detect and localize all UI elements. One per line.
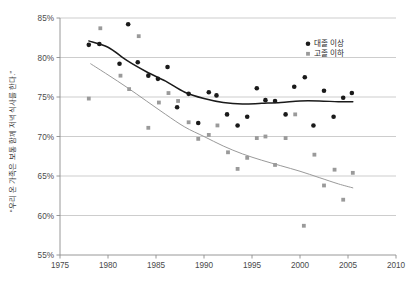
legend-marker-circle-icon — [306, 42, 311, 47]
data-point — [117, 62, 122, 67]
legend-item-label: 고졸 이하 — [314, 48, 344, 58]
x-tick-label: 1990 — [195, 261, 214, 270]
chart-legend: 대졸 이상고졸 이하 — [306, 38, 344, 58]
data-point — [135, 60, 140, 65]
data-point — [302, 224, 306, 228]
legend-item-label: 대졸 이상 — [314, 38, 344, 48]
data-point — [255, 136, 259, 140]
data-point — [283, 112, 288, 117]
x-tick-label: 2010 — [387, 261, 406, 270]
legend-marker-square-icon — [306, 52, 310, 56]
data-point — [273, 99, 278, 104]
data-point — [127, 87, 131, 91]
data-point — [226, 150, 230, 154]
data-point — [165, 65, 170, 70]
data-point — [187, 120, 191, 124]
y-tick-label: 70% — [38, 133, 54, 142]
data-point — [137, 34, 141, 38]
chart-plot: 55%60%65%70%75%80%85% 197519801985199019… — [0, 0, 410, 283]
data-point — [236, 167, 240, 171]
y-tick-label: 80% — [38, 54, 54, 63]
data-point — [341, 198, 345, 202]
data-point — [245, 156, 249, 160]
data-point — [146, 73, 151, 78]
data-point — [175, 105, 180, 110]
y-tick-label: 60% — [38, 212, 54, 221]
data-point — [98, 26, 102, 30]
x-axis-ticks — [60, 255, 396, 259]
data-point — [87, 97, 91, 101]
data-point — [119, 74, 123, 78]
data-point — [293, 112, 297, 116]
y-axis-tick-labels: 55%60%65%70%75%80%85% — [38, 14, 60, 260]
data-point — [216, 124, 220, 128]
data-point — [214, 93, 219, 98]
data-point — [196, 137, 200, 141]
chart-container: “우리 온 가족은 보통 함께 저녁식사를 한다.” 55%60%65%70%7… — [0, 0, 410, 283]
data-point — [351, 171, 355, 175]
data-point — [176, 99, 180, 103]
y-tick-label: 65% — [38, 172, 54, 181]
data-point — [303, 75, 308, 80]
data-point — [186, 92, 191, 97]
data-point — [254, 86, 259, 91]
x-tick-label: 2005 — [339, 261, 358, 270]
y-tick-label: 55% — [38, 251, 54, 260]
trend-lines — [89, 41, 353, 188]
data-point — [87, 43, 92, 48]
data-point — [245, 114, 250, 119]
data-point — [196, 121, 201, 126]
data-point — [97, 42, 102, 47]
x-tick-label: 2000 — [291, 261, 310, 270]
data-point — [313, 153, 317, 157]
x-axis-tick-labels: 19751980198519901995200020052010 — [51, 261, 406, 270]
data-point — [264, 135, 268, 139]
data-point — [284, 136, 288, 140]
data-point — [126, 22, 131, 27]
data-point — [322, 184, 326, 188]
data-point — [341, 95, 346, 100]
data-point — [207, 133, 211, 137]
y-tick-label: 85% — [38, 14, 54, 23]
data-point — [235, 123, 240, 128]
y-tick-label: 75% — [38, 93, 54, 102]
x-tick-label: 1975 — [51, 261, 70, 270]
data-point — [331, 114, 336, 119]
x-tick-label: 1995 — [243, 261, 262, 270]
data-point — [322, 88, 327, 93]
x-tick-label: 1980 — [99, 261, 118, 270]
data-point — [263, 98, 268, 103]
data-point — [207, 90, 212, 95]
data-point — [350, 91, 355, 96]
data-point — [273, 163, 277, 167]
data-point — [311, 123, 316, 128]
data-point — [156, 77, 161, 82]
x-tick-label: 1985 — [147, 261, 166, 270]
data-point — [292, 84, 297, 89]
data-point — [333, 168, 337, 172]
data-point — [157, 101, 161, 105]
data-point — [167, 91, 171, 95]
data-point — [225, 112, 230, 117]
data-point — [146, 126, 150, 130]
